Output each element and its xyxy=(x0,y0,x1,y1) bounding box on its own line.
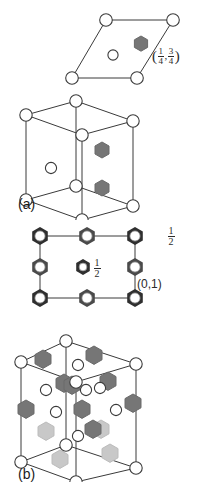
panel-b-2d-cell xyxy=(22,222,182,312)
cell-b-light-hexagon-atoms xyxy=(38,420,118,468)
coord-open-paren: ( xyxy=(152,48,157,64)
panel-b-label: (b) xyxy=(18,466,35,482)
cell-a-hexagon-atoms xyxy=(95,142,109,196)
rhombus-coordinate-label: (14,34) xyxy=(152,47,180,66)
coord-close-paren: ) xyxy=(175,48,180,64)
coord-fraction-two: 34 xyxy=(168,47,175,66)
height-fraction-top-right: 12 xyxy=(168,226,175,247)
cell-a-vertex-atoms xyxy=(20,95,139,220)
square-center-height-label: 12 xyxy=(93,258,101,279)
square-top-right-height-label: 12 xyxy=(167,226,175,247)
rhombus-interior-open-atom xyxy=(108,50,118,60)
height-fraction-center: 12 xyxy=(94,258,101,279)
panel-b-3d-cell xyxy=(8,332,193,482)
rhombus-interior-hexagon-atom xyxy=(134,36,147,51)
square-edge-height-label: (0,1) xyxy=(137,277,162,291)
cell-a-interior-open-atom xyxy=(45,162,56,173)
square-site-markers xyxy=(32,227,143,307)
panel-a-label: (a) xyxy=(18,196,35,212)
cell-a-edges xyxy=(26,101,133,220)
coord-fraction-one: 14 xyxy=(158,47,165,66)
figure-root: (14,34) xyxy=(0,0,205,495)
